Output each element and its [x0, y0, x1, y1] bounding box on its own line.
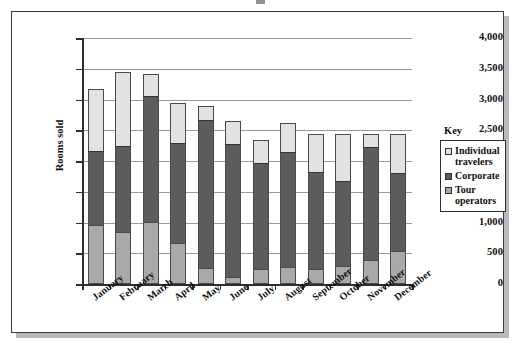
x-tick-mark — [82, 284, 84, 290]
y-axis-title: Rooms sold — [54, 86, 65, 206]
bar-stack[interactable] — [170, 103, 186, 284]
bar-segment-individual-travelers[interactable] — [88, 89, 104, 151]
bar-segment-individual-travelers[interactable] — [115, 72, 131, 146]
bar-segment-individual-travelers[interactable] — [143, 74, 159, 96]
chart-frame: Rooms sold 05001,0001,5002,0002,5003,000… — [11, 11, 504, 333]
bar-segment-corporate[interactable] — [390, 173, 406, 250]
y-tick-label: 3,000 — [457, 93, 503, 104]
bar-segment-corporate[interactable] — [170, 143, 186, 243]
bar-segment-individual-travelers[interactable] — [280, 123, 296, 152]
bar-segment-corporate[interactable] — [308, 172, 324, 269]
y-tick-label: 0 — [457, 277, 503, 288]
bar-segment-corporate[interactable] — [253, 163, 269, 268]
y-tick-label: 1,000 — [457, 216, 503, 227]
bar-segment-tour-operators[interactable] — [88, 225, 104, 284]
bar-stack[interactable] — [225, 121, 241, 284]
y-tick-label: 4,000 — [457, 31, 503, 42]
bar-segment-individual-travelers[interactable] — [198, 106, 214, 121]
bar-segment-individual-travelers[interactable] — [363, 134, 379, 148]
bar-segment-tour-operators[interactable] — [170, 243, 186, 284]
bar-stack[interactable] — [88, 89, 104, 284]
legend-item-label: Touroperators — [455, 184, 496, 206]
bar-segment-tour-operators[interactable] — [280, 267, 296, 284]
bar-segment-individual-travelers[interactable] — [390, 134, 406, 173]
legend-item[interactable]: Corporate — [445, 170, 501, 181]
figure-root: Rooms sold 05001,0001,5002,0002,5003,000… — [0, 0, 519, 350]
bar-stack[interactable] — [143, 74, 159, 284]
bar-segment-individual-travelers[interactable] — [170, 103, 186, 144]
bar-segment-individual-travelers[interactable] — [253, 140, 269, 163]
gridline — [82, 38, 412, 39]
legend-swatch-icon — [445, 173, 452, 180]
bar-stack[interactable] — [335, 134, 351, 284]
bar-segment-corporate[interactable] — [88, 151, 104, 225]
bar-segment-corporate[interactable] — [143, 96, 159, 222]
legend-item-label: Individualtravelers — [455, 145, 499, 167]
gridline — [82, 69, 412, 70]
legend-box: IndividualtravelersCorporateTouroperator… — [440, 140, 506, 212]
bar-segment-tour-operators[interactable] — [253, 269, 269, 284]
plot-area — [82, 38, 412, 284]
bar-segment-tour-operators[interactable] — [225, 277, 241, 284]
legend-swatch-icon — [445, 148, 452, 155]
bar-segment-corporate[interactable] — [198, 120, 214, 268]
bar-stack[interactable] — [253, 140, 269, 284]
bar-stack[interactable] — [390, 134, 406, 284]
y-tick-label: 3,500 — [457, 62, 503, 73]
bar-segment-individual-travelers[interactable] — [225, 121, 241, 144]
bar-segment-corporate[interactable] — [335, 181, 351, 265]
bar-segment-corporate[interactable] — [363, 147, 379, 260]
y-tick-label: 500 — [457, 246, 503, 257]
bar-stack[interactable] — [198, 106, 214, 284]
y-tick-label: 2,500 — [457, 123, 503, 134]
bar-stack[interactable] — [363, 134, 379, 284]
gridline — [82, 100, 412, 101]
bar-segment-corporate[interactable] — [115, 146, 131, 233]
cropped-title-remnant — [256, 0, 265, 4]
bar-segment-individual-travelers[interactable] — [335, 134, 351, 181]
legend-item[interactable]: Touroperators — [445, 184, 501, 206]
y-axis-line — [82, 38, 84, 285]
legend-item[interactable]: Individualtravelers — [445, 145, 501, 167]
legend-item-label: Corporate — [455, 170, 499, 181]
bar-stack[interactable] — [308, 134, 324, 284]
bar-stack[interactable] — [115, 72, 131, 284]
bar-segment-corporate[interactable] — [225, 144, 241, 276]
bar-segment-corporate[interactable] — [280, 152, 296, 268]
legend-title: Key — [444, 125, 462, 136]
legend-swatch-icon — [445, 187, 452, 194]
bar-segment-tour-operators[interactable] — [198, 268, 214, 284]
bar-stack[interactable] — [280, 123, 296, 284]
bar-segment-individual-travelers[interactable] — [308, 134, 324, 172]
gridline — [82, 130, 412, 131]
